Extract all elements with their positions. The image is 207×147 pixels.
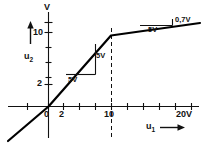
x-tick-label-20: 20V [176, 110, 192, 119]
x-tick-label-2: 2 [59, 110, 64, 119]
x-arrow-head [178, 124, 186, 130]
annotation-run-lower: 5V [68, 76, 77, 84]
annotation-rise-upper: 0,7V [175, 16, 190, 24]
y-axis-quantity-subscript: 2 [30, 56, 34, 63]
y-tick-label-2: 2 [37, 79, 42, 88]
x-tick-label-0: 0 [44, 110, 49, 119]
x-axis-quantity-subscript: 1 [152, 126, 156, 133]
y-tick-label-10: 10 [33, 28, 43, 37]
x-axis-quantity-label: u1 [146, 122, 155, 133]
annotation-rise-lower: 5V [96, 52, 105, 60]
x-tick-label-10: 10 [104, 110, 114, 119]
y-axis-quantity-label: u2 [24, 52, 33, 63]
chart-figure: V 10 2 u2 0 2 10 20V u1 5V 5V 5V 0,7V [0, 0, 207, 147]
y-axis-unit-label: V [44, 3, 50, 12]
annotation-run-upper: 5V [148, 26, 157, 34]
